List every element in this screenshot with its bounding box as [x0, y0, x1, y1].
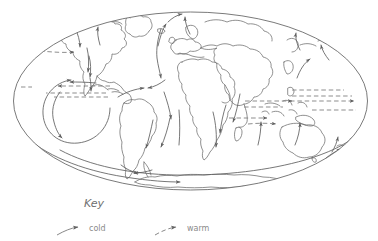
coastline-japan	[284, 61, 293, 74]
cold-current-greenland-branch	[98, 27, 100, 45]
coastline-north-america	[61, 18, 126, 96]
key-label-warm: warm	[187, 224, 210, 233]
coastline-central-america	[97, 76, 131, 104]
cold-current-south-atlantic-drift	[146, 120, 153, 148]
cold-current-nadw-descent	[89, 56, 91, 77]
coastline-philippines	[288, 87, 294, 96]
cold-current-equatorial-atlantic	[148, 80, 165, 88]
cold-current-north-sea	[168, 14, 182, 22]
cold-current-pacific-upwelling-west	[258, 122, 261, 145]
coastline-south-america	[120, 99, 157, 179]
coastline-scandinavia	[186, 25, 198, 39]
map-contents	[21, 14, 356, 188]
warm-currents-group	[21, 51, 356, 124]
coastline-greenland	[125, 15, 152, 37]
coastline-aleutians	[300, 40, 328, 46]
cold-current-arrow-icon	[57, 227, 78, 235]
cold-current-north-equatorial-atlantic	[70, 82, 96, 83]
coastline-madagascar	[235, 127, 243, 141]
warm-current-arrow-icon	[155, 227, 176, 235]
coastline-cuba	[108, 89, 119, 91]
coastline-siberia-north	[205, 20, 272, 41]
coastline-indonesia	[262, 100, 307, 116]
key-item-cold: cold	[57, 224, 106, 235]
coastline-tasmania	[312, 158, 316, 163]
coastline-africa	[178, 59, 236, 160]
cold-current-circumpolar-lower	[22, 134, 180, 182]
map-globe	[14, 12, 368, 190]
cold-current-labrador	[75, 28, 80, 47]
cold-current-benguela	[179, 110, 180, 145]
warm-current-indonesia-throughflow	[248, 123, 276, 124]
key-legend: Key cold warm	[57, 197, 210, 235]
coastline-antarctic-peninsula	[144, 162, 151, 177]
cold-current-pacific-gyre-inner	[53, 92, 62, 138]
warm-current-north-atlantic-drift	[40, 51, 74, 52]
coastline-australia	[280, 123, 325, 158]
cold-current-brazil-deep	[161, 118, 170, 147]
cold-current-gulf-stream	[118, 88, 144, 97]
coastline-india	[239, 104, 247, 127]
key-item-warm: warm	[155, 224, 210, 235]
cold-current-pacific-upwelling-east	[295, 123, 300, 145]
coastline-britain	[169, 37, 175, 43]
key-title: Key	[84, 197, 105, 210]
coastline-asia	[201, 44, 273, 106]
coastline-arabia	[222, 85, 230, 103]
cold-current-north-pacific-drift	[321, 45, 329, 60]
cold-current-kuroshio-extension	[297, 59, 310, 78]
cold-current-pacific-gyre	[43, 80, 110, 143]
ocean-currents-figure: Key cold warm	[0, 0, 378, 241]
cold-current-south-atlantic	[164, 92, 171, 119]
cold-current-antarctic-circumpolar	[60, 137, 354, 175]
coastline-caribbean	[112, 92, 123, 94]
cold-current-tasman	[332, 137, 338, 152]
cold-current-indian-return	[220, 105, 226, 133]
coastline-gulf-coast	[91, 85, 108, 90]
key-label-cold: cold	[89, 224, 106, 233]
cold-current-north-atlantic-sink	[87, 48, 89, 72]
